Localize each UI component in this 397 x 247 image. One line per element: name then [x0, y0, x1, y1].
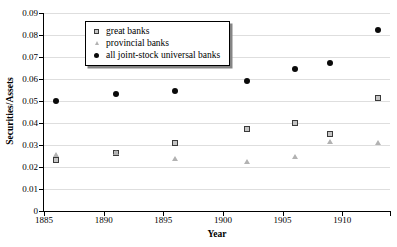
y-tick-label: 0.05	[6, 96, 38, 106]
data-point-provincial-banks	[53, 152, 59, 157]
y-gridline	[44, 79, 390, 80]
y-axis-tick	[39, 35, 43, 36]
x-tick-label: 1910	[324, 215, 360, 225]
y-gridline	[44, 145, 390, 146]
data-point-all-joint-stock-universal-banks	[172, 88, 178, 94]
chart-figure: Securities/Assets 00.010.020.030.040.050…	[0, 0, 397, 247]
data-point-provincial-banks	[244, 159, 250, 164]
legend-item-provincial-banks: provincial banks	[92, 37, 220, 49]
y-tick-label: 0.02	[6, 162, 38, 172]
y-axis-tick	[39, 13, 43, 14]
x-tick-label: 1885	[26, 215, 62, 225]
data-point-all-joint-stock-universal-banks	[244, 78, 250, 84]
x-axis-title: Year	[44, 229, 390, 239]
legend-item-great-banks: great banks	[92, 25, 220, 37]
y-axis-tick	[39, 57, 43, 58]
data-point-provincial-banks	[172, 156, 178, 161]
x-tick-label: 1895	[145, 215, 181, 225]
x-tick-label: 1905	[265, 215, 301, 225]
data-point-all-joint-stock-universal-banks	[327, 60, 333, 66]
y-gridline	[44, 189, 390, 190]
data-point-all-joint-stock-universal-banks	[375, 27, 381, 33]
data-point-great-banks	[375, 95, 381, 101]
square-marker-icon	[92, 29, 101, 34]
circle-marker-icon	[92, 53, 101, 58]
x-tick-label: 1900	[205, 215, 241, 225]
data-point-provincial-banks	[375, 140, 381, 145]
y-tick-label: 0.01	[6, 184, 38, 194]
data-point-great-banks	[292, 120, 298, 126]
y-axis-tick	[39, 101, 43, 102]
y-axis-tick	[39, 189, 43, 190]
x-tick-label: 1890	[86, 215, 122, 225]
x-axis-line	[43, 211, 391, 212]
legend-label: all joint-stock universal banks	[106, 49, 220, 61]
y-tick-label: 0.06	[6, 74, 38, 84]
data-point-great-banks	[53, 157, 59, 163]
legend-label: provincial banks	[106, 37, 169, 49]
data-point-provincial-banks	[113, 150, 119, 155]
y-axis-tick	[39, 79, 43, 80]
triangle-marker-icon	[92, 41, 101, 45]
data-point-great-banks	[244, 126, 250, 132]
y-axis-tick	[39, 145, 43, 146]
y-tick-label: 0.04	[6, 118, 38, 128]
data-point-all-joint-stock-universal-banks	[53, 98, 59, 104]
y-tick-label: 0.08	[6, 30, 38, 40]
data-point-all-joint-stock-universal-banks	[113, 91, 119, 97]
y-tick-label: 0.09	[6, 8, 38, 18]
data-point-great-banks	[327, 131, 333, 137]
y-tick-label: 0.03	[6, 140, 38, 150]
legend: great banks provincial banks all joint-s…	[85, 21, 230, 66]
y-axis-tick	[39, 123, 43, 124]
y-axis-tick	[39, 211, 43, 212]
y-gridline	[44, 13, 390, 14]
y-axis-tick	[39, 167, 43, 168]
legend-label: great banks	[106, 25, 150, 37]
y-gridline	[44, 167, 390, 168]
data-point-all-joint-stock-universal-banks	[292, 66, 298, 72]
x-axis-end-tick	[390, 212, 391, 216]
y-gridline	[44, 123, 390, 124]
y-axis-line	[43, 13, 44, 212]
data-point-great-banks	[172, 140, 178, 146]
y-gridline	[44, 101, 390, 102]
data-point-provincial-banks	[327, 139, 333, 144]
legend-item-universal-banks: all joint-stock universal banks	[92, 49, 220, 61]
data-point-provincial-banks	[292, 154, 298, 159]
y-tick-label: 0.07	[6, 52, 38, 62]
